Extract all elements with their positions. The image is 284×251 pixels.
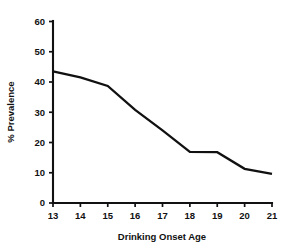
- x-axis-tick-label: 18: [185, 210, 196, 221]
- x-axis-tick-labels: 131415161718192021: [48, 210, 278, 221]
- x-axis-tick-label: 16: [130, 210, 141, 221]
- x-axis-title: Drinking Onset Age: [118, 231, 206, 242]
- prevalence-data-line: [53, 71, 272, 174]
- y-axis-tick-label: 40: [34, 76, 45, 87]
- y-axis-tick-label: 0: [40, 197, 45, 208]
- line-chart-plot: 0102030405060 131415161718192021 % Preva…: [0, 0, 284, 251]
- x-axis-tick-label: 15: [102, 210, 113, 221]
- x-axis-tick-label: 14: [75, 210, 86, 221]
- y-axis-tick-label: 20: [34, 137, 45, 148]
- y-axis-tick-label: 60: [34, 16, 45, 27]
- y-axis-tick-label: 30: [34, 107, 45, 118]
- x-axis-tick-label: 13: [48, 210, 59, 221]
- y-axis-tick-label: 10: [34, 167, 45, 178]
- x-axis-tick-label: 19: [212, 210, 223, 221]
- x-axis-tick-label: 17: [157, 210, 168, 221]
- chart-figure: 0102030405060 131415161718192021 % Preva…: [0, 0, 284, 251]
- y-axis-tick-label: 50: [34, 46, 45, 57]
- x-axis-tick-label: 20: [239, 210, 250, 221]
- x-axis-tick-label: 21: [267, 210, 278, 221]
- y-axis-tick-labels: 0102030405060: [34, 16, 45, 209]
- y-axis-title: % Prevalence: [5, 81, 16, 142]
